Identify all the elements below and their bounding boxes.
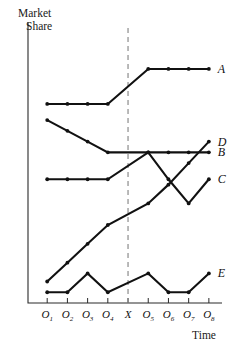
data-point-B-O8 <box>207 150 211 154</box>
data-point-E-O4 <box>106 290 110 294</box>
data-point-A-O6 <box>167 67 171 71</box>
data-point-D-O5 <box>146 202 150 206</box>
data-point-C-O6 <box>167 177 171 181</box>
data-point-E-O1 <box>45 290 49 294</box>
data-point-E-O8 <box>207 272 211 276</box>
x-tick-label-X: X <box>124 308 133 320</box>
data-point-B-O6 <box>167 150 171 154</box>
data-point-A-O3 <box>86 102 90 106</box>
chart-canvas: ABCDE O1O2O3O4XO5O6O7O8 Market Share Tim… <box>0 0 245 349</box>
x-tick-label-O8: O8 <box>203 308 215 323</box>
axes <box>28 22 222 303</box>
x-tick-label-O3: O3 <box>82 308 94 323</box>
data-point-E-O7 <box>187 290 191 294</box>
data-point-C-O7 <box>187 202 191 206</box>
data-point-A-O4 <box>106 102 110 106</box>
x-axis-label: Time <box>192 329 216 341</box>
data-point-B-O1 <box>45 118 49 122</box>
data-point-C-O8 <box>207 177 211 181</box>
data-point-E-O2 <box>66 290 70 294</box>
x-tick-label-O2: O2 <box>62 308 74 323</box>
x-tick-label-O6: O6 <box>163 308 175 323</box>
data-point-E-O6 <box>167 290 171 294</box>
data-point-A-O2 <box>66 102 70 106</box>
series-label-D: D <box>217 135 227 149</box>
data-point-E-O3 <box>86 272 90 276</box>
data-point-E-O5 <box>146 272 150 276</box>
y-axis-label-line2: Share <box>26 20 52 32</box>
series-line-C <box>47 152 209 203</box>
data-point-A-O8 <box>207 67 211 71</box>
axis-lines <box>28 22 222 303</box>
data-point-A-O1 <box>45 102 49 106</box>
data-point-D-O8 <box>207 140 211 144</box>
data-point-D-O4 <box>106 223 110 227</box>
x-tick-label-O4: O4 <box>102 308 114 323</box>
data-point-C-O5 <box>146 150 150 154</box>
data-point-C-O3 <box>86 177 90 181</box>
data-point-D-O6 <box>167 183 171 187</box>
series-label-A: A <box>217 62 226 76</box>
data-point-D-O1 <box>45 280 49 284</box>
data-point-D-O7 <box>187 161 191 165</box>
data-point-C-O1 <box>45 177 49 181</box>
data-point-B-O7 <box>187 150 191 154</box>
series-label-C: C <box>218 172 227 186</box>
data-point-B-O3 <box>86 140 90 144</box>
data-point-B-O4 <box>106 150 110 154</box>
market-share-chart: ABCDE O1O2O3O4XO5O6O7O8 Market Share Tim… <box>0 0 245 349</box>
data-point-C-O2 <box>66 177 70 181</box>
x-tick-label-O1: O1 <box>41 308 52 323</box>
series-label-E: E <box>217 266 226 280</box>
data-point-A-O5 <box>146 67 150 71</box>
data-point-D-O2 <box>66 261 70 265</box>
x-tick-label-O7: O7 <box>183 308 195 323</box>
x-tick-label-O5: O5 <box>143 308 155 323</box>
data-point-D-O3 <box>86 242 90 246</box>
series-end-labels: ABCDE <box>217 62 227 280</box>
y-axis-label-line1: Market <box>18 7 52 19</box>
data-point-C-O4 <box>106 177 110 181</box>
data-point-A-O7 <box>187 67 191 71</box>
data-point-B-O2 <box>66 129 70 133</box>
x-axis-tick-labels: O1O2O3O4XO5O6O7O8 <box>41 308 215 323</box>
